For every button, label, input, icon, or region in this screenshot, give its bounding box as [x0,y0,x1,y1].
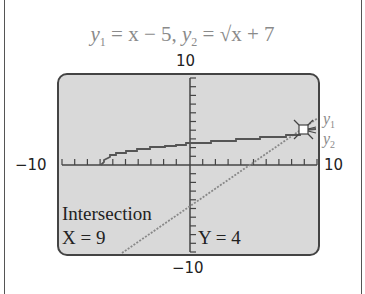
intersection-x-value: X = 9 [62,227,105,249]
legend-item-y2: y2 [323,132,335,152]
intersection-heading: Intersection [62,203,152,225]
legend: y1 y2 [323,112,335,152]
intersection-y-value: Y = 4 [198,227,241,249]
legend-item-y1: y1 [323,112,335,132]
legend-y1-subscript: 1 [330,119,335,130]
y2-curve [101,129,316,165]
legend-y2-subscript: 2 [330,139,335,150]
plot-area [0,0,365,294]
